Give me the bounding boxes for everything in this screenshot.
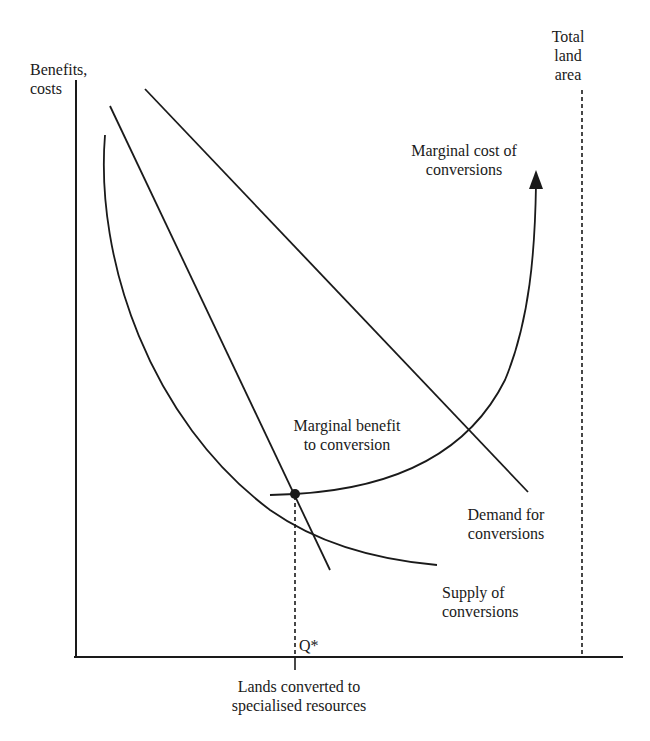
marginal-cost-label: Marginal cost of conversions (394, 141, 534, 179)
marginal-benefit-label-line2: to conversion (272, 435, 422, 454)
marginal-benefit-curve (110, 106, 330, 570)
marginal-cost-label-line1: Marginal cost of (394, 141, 534, 160)
total-land-area-line2: land (540, 46, 596, 65)
demand-label-line2: conversions (450, 524, 562, 543)
land-conversion-diagram: Benefits, costs Total land area Marginal… (0, 0, 650, 741)
y-axis-label-line2: costs (30, 79, 87, 98)
y-axis-label: Benefits, costs (30, 60, 87, 98)
total-land-area-line1: Total (540, 27, 596, 46)
x-axis-label: Lands converted to specialised resources (214, 677, 384, 715)
total-land-area-label: Total land area (540, 27, 596, 84)
marginal-benefit-label-line1: Marginal benefit (272, 416, 422, 435)
supply-label-line2: conversions (442, 602, 518, 621)
demand-label-line1: Demand for (450, 505, 562, 524)
supply-label-line1: Supply of (442, 583, 518, 602)
total-land-area-line3: area (540, 65, 596, 84)
marginal-benefit-label: Marginal benefit to conversion (272, 416, 422, 454)
x-axis-label-line1: Lands converted to (214, 677, 384, 696)
supply-label: Supply of conversions (442, 583, 518, 621)
q-star-label: Q* (299, 636, 319, 655)
diagram-canvas (0, 0, 650, 741)
y-axis-label-line1: Benefits, (30, 60, 87, 79)
equilibrium-point (290, 489, 300, 499)
demand-label: Demand for conversions (450, 505, 562, 543)
marginal-cost-label-line2: conversions (394, 160, 534, 179)
x-axis-label-line2: specialised resources (214, 696, 384, 715)
